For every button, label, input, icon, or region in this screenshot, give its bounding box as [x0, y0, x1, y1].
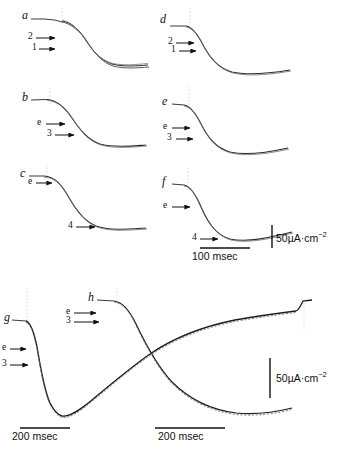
figure-canvas: a b c d e f g h 2 1 e 3 e 4 2 1 e 3 e 4 …	[0, 0, 344, 457]
trace-label-g-3: 3	[2, 359, 7, 369]
panel-letter-h: h	[88, 291, 94, 303]
scale-current-bottom-exponent: −2	[318, 370, 327, 379]
scale-label-current-bottom: 50µA·cm−2	[276, 371, 327, 383]
panel-letter-c: c	[20, 167, 25, 179]
trace-label-f-e: e	[163, 201, 167, 211]
panel-letter-f: f	[162, 175, 165, 187]
panel-c-traces	[29, 164, 147, 230]
scale-label-time-top: 100 msec	[192, 251, 238, 262]
trace-label-e-e: e	[163, 122, 167, 132]
trace-label-f-4: 4	[192, 233, 197, 243]
trace-label-b-e: e	[37, 118, 41, 128]
scale-label-current-top: 50µA·cm−2	[276, 231, 327, 243]
panel-e-traces	[172, 86, 289, 155]
scale-current-bottom-unit: µA·cm	[288, 372, 319, 384]
scale-current-bottom-value: 50	[276, 372, 288, 384]
scale-current-top-unit: µA·cm	[288, 232, 319, 244]
scale-label-time-bottom-right: 200 msec	[158, 431, 204, 442]
trace-label-a-1: 1	[32, 43, 37, 53]
figure-traces	[0, 0, 344, 457]
scale-label-time-bottom-left: 200 msec	[12, 431, 58, 442]
panel-letter-b: b	[22, 91, 28, 103]
trace-label-c-e: e	[28, 177, 32, 187]
trace-label-e-3: 3	[167, 133, 172, 143]
panel-letter-d: d	[160, 13, 166, 25]
trace-label-g-e: e	[2, 343, 6, 353]
panel-d-traces	[170, 8, 291, 75]
panel-letter-e: e	[162, 95, 167, 107]
trace-label-c-4: 4	[68, 221, 73, 231]
panel-h-traces	[74, 288, 292, 415]
trace-label-h-3: 3	[66, 316, 71, 326]
trace-label-a-2: 2	[28, 32, 33, 42]
panel-letter-g: g	[4, 311, 10, 323]
scale-current-top-value: 50	[276, 232, 288, 244]
panel-f-traces	[172, 168, 293, 241]
panel-a-traces	[31, 8, 149, 68]
scale-current-top-exponent: −2	[318, 230, 327, 239]
panel-letter-a: a	[22, 9, 28, 21]
panel-g-traces	[10, 288, 312, 418]
trace-label-d-1: 1	[171, 45, 176, 55]
trace-label-b-3: 3	[47, 129, 52, 139]
